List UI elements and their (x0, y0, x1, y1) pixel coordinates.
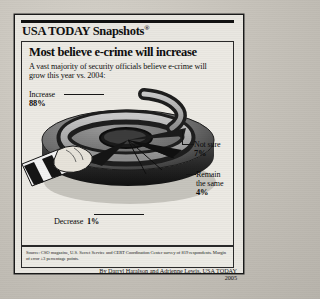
header-rule (21, 20, 234, 23)
publication-year: 2005 (15, 274, 243, 281)
label-remain-line2: the same (196, 179, 223, 188)
label-decrease-name: Decrease (54, 217, 83, 226)
source-box: Source: CSO magazine, U.S. Secret Servic… (21, 246, 234, 268)
label-increase-name: Increase (29, 90, 55, 99)
label-decrease: Decrease 1% (54, 210, 99, 228)
page-title: Most believe e-crime will increase (29, 46, 227, 59)
usa-today-snapshots-logo: USA TODAY Snapshots® (22, 24, 149, 39)
leader-line-decrease (94, 214, 144, 215)
logo-text: USA TODAY Snapshots (22, 24, 144, 38)
leader-line-not-sure-vertical (182, 130, 183, 145)
label-increase: Increase 88% (29, 90, 55, 108)
label-remain-the-same: Remain the same 4% (196, 170, 223, 197)
leader-line-increase (64, 94, 104, 95)
label-remain-line1: Remain (196, 170, 223, 179)
source-text: Source: CSO magazine, U.S. Secret Servic… (22, 247, 233, 261)
label-decrease-value: 1% (87, 217, 99, 226)
label-remain-value: 4% (196, 188, 223, 197)
label-not-sure: Not sure 7% (194, 140, 221, 158)
registered-trademark-icon: ® (144, 24, 149, 32)
leader-line-not-sure (182, 144, 194, 145)
label-not-sure-name: Not sure (194, 140, 221, 149)
chart-panel: Most believe e-crime will increase A vas… (21, 41, 234, 246)
label-increase-value: 88% (29, 99, 55, 108)
leader-line-remain (186, 174, 196, 175)
snapshot-card: USA TODAY Snapshots® Most believe e-crim… (14, 14, 244, 274)
label-not-sure-value: 7% (194, 149, 221, 158)
